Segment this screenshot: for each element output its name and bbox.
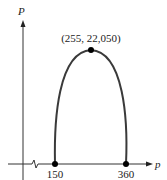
y-axis-label: P — [17, 5, 25, 17]
vertex-label: (255, 22,050) — [61, 32, 121, 45]
root-point-150 — [52, 161, 58, 167]
x-axis-label: p — [154, 158, 161, 170]
root-point-360 — [123, 161, 129, 167]
tick-label-150: 150 — [47, 168, 64, 180]
axis-break-icon — [32, 160, 38, 168]
vertex-point — [88, 47, 94, 53]
chart: P p (255, 22,050) 150 360 — [0, 0, 167, 180]
y-axis-arrow-icon — [21, 20, 26, 27]
parabola-curve — [55, 50, 127, 164]
tick-label-360: 360 — [118, 168, 135, 180]
x-axis-arrow-icon — [146, 162, 153, 167]
